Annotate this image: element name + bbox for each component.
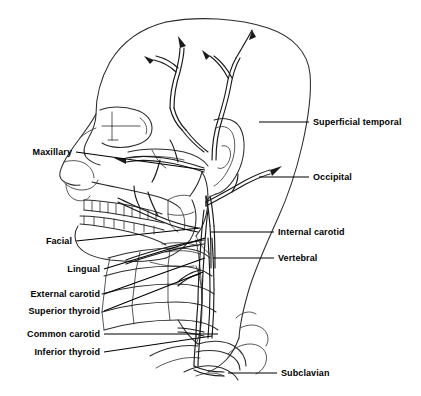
superficial-temporal-artery-vessel	[202, 30, 256, 160]
leader-lingual	[104, 238, 205, 269]
facial-profile-outline	[60, 114, 98, 201]
common-carotid-artery-vessel	[194, 336, 200, 366]
maxillary-artery-vessel	[114, 140, 204, 182]
leader-maxillary	[76, 152, 205, 170]
label-lingual: Lingual	[67, 264, 100, 274]
leader-lines	[76, 122, 309, 373]
neck-soft-tissue	[196, 240, 239, 372]
eye-orbit	[100, 107, 152, 147]
label-maxillary: Maxillary	[33, 147, 72, 157]
frontal-branch-vessel	[144, 36, 208, 152]
label-subclavian: Subclavian	[281, 368, 330, 378]
label-superficial-temporal: Superficial temporal	[313, 117, 402, 127]
label-internal-carotid: Internal carotid	[278, 227, 345, 237]
artery-diagram-figure: Maxillary Facial Lingual External caroti…	[0, 0, 421, 396]
label-common-carotid: Common carotid	[27, 329, 100, 339]
label-superior-thyroid: Superior thyroid	[28, 306, 100, 316]
label-external-carotid: External carotid	[30, 289, 100, 299]
label-facial: Facial	[46, 236, 72, 246]
occipital-artery-vessel	[206, 166, 282, 206]
label-vertebral: Vertebral	[278, 253, 317, 263]
leader-facial	[76, 228, 200, 241]
leader-superior-thyroid	[104, 272, 203, 311]
facial-artery-vessel	[118, 186, 198, 232]
label-occipital: Occipital	[313, 172, 352, 182]
label-inferior-thyroid: Inferior thyroid	[34, 347, 100, 357]
